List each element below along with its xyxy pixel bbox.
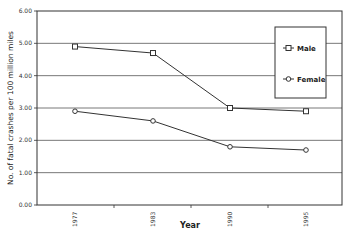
square-marker-icon [304,109,309,114]
y-axis-ticks: 0.001.002.003.004.005.006.00 [19,7,37,208]
legend-box [275,27,326,98]
legend-label-male: Male [297,45,316,53]
square-marker-icon [151,51,156,56]
square-marker-icon [286,46,291,51]
x-tick-label: 1995 [302,212,309,227]
x-axis-title: Year [179,221,200,230]
legend-label-female: Female [297,76,326,84]
legend: Male Female [275,27,326,98]
data-series [73,44,309,152]
y-tick-label: 5.00 [19,39,33,46]
circle-marker-icon [73,109,78,114]
series-line-male [75,47,306,112]
line-chart: 0.001.002.003.004.005.006.00 19771983199… [0,0,350,239]
square-marker-icon [73,44,78,49]
x-tick-label: 1977 [71,212,78,227]
y-axis-title: No. of fatal crashes per 100 million mil… [6,31,15,185]
y-tick-label: 0.00 [19,201,33,208]
x-tick-label: 1983 [149,212,156,227]
circle-marker-icon [228,145,233,150]
y-tick-label: 3.00 [19,104,33,111]
square-marker-icon [228,106,233,111]
y-tick-label: 6.00 [19,7,33,14]
circle-marker-icon [286,77,291,82]
x-tick-label: 1990 [226,212,233,227]
circle-marker-icon [304,148,309,153]
y-tick-label: 4.00 [19,72,33,79]
circle-marker-icon [151,119,156,124]
series-line-female [75,111,306,150]
y-tick-label: 1.00 [19,169,33,176]
y-tick-label: 2.00 [19,136,33,143]
